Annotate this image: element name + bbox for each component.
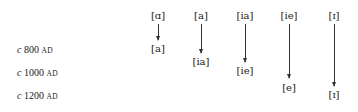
result-sound-2: [ia] — [193, 56, 210, 68]
era: AD — [46, 92, 57, 101]
year: 1200 — [24, 90, 44, 101]
result-sound-3: [ie] — [237, 65, 254, 77]
source-sound-5: [ɪ] — [328, 10, 339, 22]
arrow-icon — [334, 24, 335, 86]
date-label-800: c 800 AD — [17, 44, 53, 55]
year: 800 — [24, 44, 39, 55]
date-label-1000: c 1000 AD — [17, 67, 58, 78]
arrow-icon — [245, 24, 246, 62]
circa-prefix: c — [17, 67, 21, 78]
source-sound-3: [ia] — [237, 10, 254, 22]
arrow-icon — [289, 24, 290, 78]
year: 1000 — [24, 67, 44, 78]
circa-prefix: c — [17, 44, 21, 55]
era: AD — [41, 46, 52, 55]
arrow-icon — [201, 24, 202, 53]
result-sound-4: [e] — [282, 82, 296, 94]
arrow-icon — [158, 24, 159, 40]
result-sound-5: [ɪ] — [328, 89, 339, 101]
circa-prefix: c — [17, 90, 21, 101]
era: AD — [46, 69, 57, 78]
source-sound-1: [ɑ] — [151, 10, 165, 22]
source-sound-4: [ie] — [281, 10, 298, 22]
source-sound-2: [a] — [194, 10, 208, 22]
result-sound-1: [a] — [151, 43, 165, 55]
date-label-1200: c 1200 AD — [17, 90, 58, 101]
